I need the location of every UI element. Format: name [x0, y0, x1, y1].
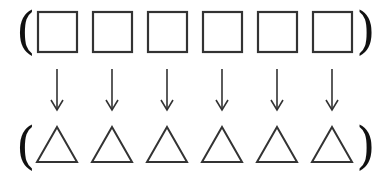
square-5: [258, 12, 297, 52]
map-diagram: ( ) ( ): [0, 0, 388, 177]
down-arrow-icon: [106, 69, 118, 110]
triangle-5: [257, 127, 297, 162]
square-list: [38, 12, 352, 52]
top-row-sequence: ( ): [16, 2, 376, 60]
down-arrow-icon: [216, 69, 228, 110]
down-arrow-icon: [51, 69, 63, 110]
triangle-3: [147, 127, 187, 162]
bottom-close-paren: ): [356, 117, 376, 175]
square-4: [203, 12, 242, 52]
square-2: [93, 12, 132, 52]
triangle-2: [92, 127, 132, 162]
square-6: [313, 12, 352, 52]
triangle-6: [312, 127, 352, 162]
down-arrow-icon: [161, 69, 173, 110]
square-3: [148, 12, 187, 52]
square-1: [38, 12, 77, 52]
down-arrow-icon: [271, 69, 283, 110]
arrow-list: [51, 69, 338, 110]
triangle-4: [202, 127, 242, 162]
down-arrow-icon: [326, 69, 338, 110]
bottom-row-sequence: ( ): [16, 117, 376, 175]
top-open-paren: (: [16, 2, 36, 60]
top-close-paren: ): [356, 2, 376, 60]
triangle-1: [37, 127, 77, 162]
triangle-list: [37, 127, 352, 162]
bottom-open-paren: (: [16, 117, 36, 175]
